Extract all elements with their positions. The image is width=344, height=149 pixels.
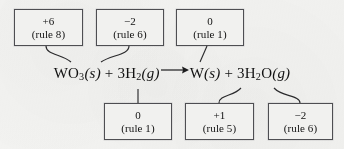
oxidation-rule-reference: (rule 8) <box>32 28 65 41</box>
plus-sign-reactants: + <box>101 65 118 81</box>
label-box-o-in-h2o: −2 (rule 6) <box>268 103 333 140</box>
oxidation-rule-reference: (rule 1) <box>193 28 226 41</box>
reactant-h2-formula: 3H <box>118 65 137 81</box>
reactant-h2-state: (g) <box>142 65 160 81</box>
label-box-h-in-h2o: +1 (rule 5) <box>185 103 254 140</box>
product-h2o-formula: 3H <box>237 65 256 81</box>
connector-arrow-h-in-h2o <box>219 82 246 103</box>
oxidation-number-value: 0 <box>135 109 141 122</box>
reactant-h2: 3H2(g) <box>118 65 160 81</box>
oxidation-rule-reference: (rule 6) <box>113 28 146 41</box>
oxidation-rule-reference: (rule 5) <box>203 122 236 135</box>
oxidation-number-value: +6 <box>42 15 54 28</box>
oxidation-number-figure: +6 (rule 8) −2 (rule 6) 0 (rule 1) WO3(s… <box>0 0 344 149</box>
product-w: W(s) <box>190 65 221 81</box>
label-box-w-in-wo3: +6 (rule 8) <box>14 9 83 46</box>
label-box-w-product: 0 (rule 1) <box>176 9 244 46</box>
label-box-h2-reactant: 0 (rule 1) <box>104 103 172 140</box>
product-h2o: 3H2O(g) <box>237 65 290 81</box>
connector-arrow-o-in-h2o <box>269 82 300 103</box>
reactant-wo3-formula: WO <box>54 65 79 81</box>
product-w-state: (s) <box>204 65 220 81</box>
oxidation-number-value: +1 <box>213 109 225 122</box>
reactant-wo3-state: (s) <box>84 65 100 81</box>
product-h2o-state: (g) <box>272 65 290 81</box>
chemical-equation: WO3(s)+3H2(g) W(s)+3H2O(g) <box>0 64 344 82</box>
product-w-formula: W <box>190 65 204 81</box>
oxidation-number-value: 0 <box>207 15 213 28</box>
plus-sign-products: + <box>220 65 237 81</box>
reaction-arrow-icon <box>160 64 190 76</box>
connector-arrow-h2-reactant <box>134 82 142 103</box>
oxidation-rule-reference: (rule 6) <box>284 122 317 135</box>
oxidation-number-value: −2 <box>124 15 136 28</box>
product-h2o-oxygen: O <box>261 65 272 81</box>
oxidation-rule-reference: (rule 1) <box>121 122 154 135</box>
label-box-o-in-wo3: −2 (rule 6) <box>96 9 164 46</box>
oxidation-number-value: −2 <box>294 109 306 122</box>
reactant-wo3: WO3(s) <box>54 65 101 81</box>
